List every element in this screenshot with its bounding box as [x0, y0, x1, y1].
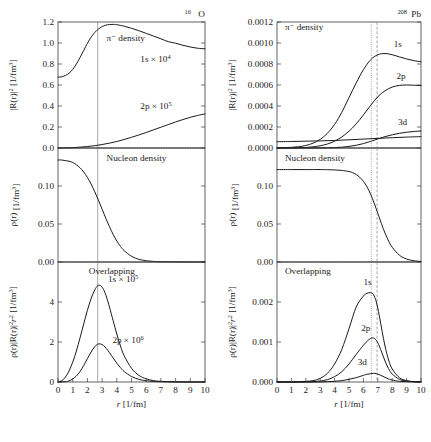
plot-frame-left-middle: 0.100.050.00: [38, 148, 205, 267]
xtick-right-2: 2: [304, 385, 309, 395]
x-axis-label-right: r [1/fm]: [334, 399, 363, 409]
xtick-left-10: 10: [200, 385, 210, 395]
svg-text:|R(r)|2 [1/fm3]: |R(r)|2 [1/fm3]: [226, 59, 237, 110]
annotation-3d-top-right: 3d: [398, 117, 408, 127]
xtick-right-1: 1: [289, 385, 294, 395]
xtick-left-4: 4: [115, 385, 120, 395]
xtick-right-8: 8: [390, 385, 395, 395]
panel-title-left: 16O: [185, 8, 206, 19]
xtick-left-2: 2: [85, 385, 90, 395]
ytick-left-middle-2: 0.05: [38, 219, 54, 229]
figure-root: 16O1.21.00.80.60.40.20.00.100.050.004200…: [0, 0, 431, 442]
svg-text:208: 208: [397, 8, 407, 15]
annotation-3d-bottom-right: 3d: [358, 357, 368, 367]
ytick-left-middle-3: 0.00: [38, 257, 54, 267]
annotation-pi-density-right: π⁻ density: [285, 22, 324, 32]
xtick-left-3: 3: [100, 385, 105, 395]
ytick-right-top-0: 0.0012: [248, 17, 274, 27]
y-axis-label-right-middle: ρ(r) [1/fm3]: [227, 184, 240, 227]
curve-left-top-2p-x-10-5: [58, 114, 205, 148]
ytick-left-top-6: 0.0: [43, 143, 55, 153]
plot-frame-right-middle: 0.100.050.00: [257, 148, 421, 267]
curve-left-bottom-1s-x-10-5: [58, 285, 205, 382]
annotation-pi-density-left: π⁻ density: [107, 33, 146, 43]
ref-lines-right-bottom: [371, 262, 377, 382]
y-axis-label-left-bottom: ρ(r)|R(r)|2r2 [1/fm3]: [7, 286, 18, 358]
chart-o16: 16O1.21.00.80.60.40.20.00.100.050.004200…: [0, 0, 215, 442]
ytick-right-middle-2: 0.05: [257, 219, 273, 229]
ytick-right-top-5: 0.0002: [248, 122, 274, 132]
annotation-1s-top-right: 1s: [394, 39, 403, 49]
xtick-right-7: 7: [376, 385, 381, 395]
ytick-left-bottom-2: 2: [49, 337, 54, 347]
svg-text:ρ(r)|R(r)|2r2 [1/fm3]: ρ(r)|R(r)|2r2 [1/fm3]: [226, 286, 237, 358]
annotation-2p-bottom-right: 2p: [361, 323, 371, 333]
x-axis-left: 012345678910r [1/fm]: [56, 378, 210, 409]
ytick-left-top-1: 1.0: [43, 38, 55, 48]
ytick-right-top-3: 0.0006: [248, 80, 274, 90]
curve-left-nucleon-density: [58, 160, 205, 262]
svg-text:|R(r)|2 [1/fm3]: |R(r)|2 [1/fm3]: [7, 59, 18, 110]
ytick-right-bottom-2: 0.001: [252, 337, 273, 347]
ytick-left-middle-1: 0.10: [38, 181, 54, 191]
y-axis-label-right-bottom: ρ(r)|R(r)|2r2 [1/fm3]: [226, 286, 237, 358]
xtick-right-10: 10: [416, 385, 426, 395]
xtick-left-6: 6: [144, 385, 149, 395]
annotation-2p-top-right: 2p: [397, 71, 407, 81]
curve-left-bottom-2p-x-10-6: [58, 344, 205, 382]
xtick-right-6: 6: [361, 385, 366, 395]
curve-right-top-baseline-small: [277, 137, 421, 142]
annotation-1s-top-left: 1s × 104: [140, 53, 171, 64]
y-axis-label-left-middle: ρ(r) [1/fm3]: [8, 184, 21, 227]
x-axis-right: 012345678910r [1/fm]: [275, 378, 426, 409]
ytick-right-middle-1: 0.10: [257, 181, 273, 191]
annotation-overlapping-right: Overlapping: [285, 266, 331, 276]
xtick-right-9: 9: [404, 385, 409, 395]
plot-frame-right-top: 0.00120.00100.00080.00060.00040.00020.00…: [248, 17, 421, 153]
annotation-2p-top-left: 2p × 105: [140, 100, 171, 111]
chart-pb208: 208Pb0.00120.00100.00080.00060.00040.000…: [215, 0, 431, 442]
ytick-left-bottom-1: 4: [49, 297, 54, 307]
xtick-left-0: 0: [56, 385, 61, 395]
ytick-left-top-2: 0.8: [43, 59, 55, 69]
svg-text:O: O: [198, 9, 205, 19]
ytick-left-top-3: 0.6: [43, 80, 55, 90]
xtick-left-8: 8: [173, 385, 178, 395]
ytick-left-bottom-3: 0: [49, 377, 54, 387]
svg-text:ρ(r) [1/fm3]: ρ(r) [1/fm3]: [227, 184, 240, 227]
panel-group-pb208: 208Pb0.00120.00100.00080.00060.00040.000…: [215, 0, 430, 442]
ytick-right-top-4: 0.0004: [248, 101, 274, 111]
annotation-1s-bottom-left: 1s × 105: [108, 273, 138, 284]
svg-text:ρ(r) [1/fm3]: ρ(r) [1/fm3]: [8, 184, 21, 227]
xtick-left-9: 9: [188, 385, 193, 395]
curve-right-nucleon-density: [277, 170, 421, 262]
ytick-right-top-2: 0.0008: [248, 59, 274, 69]
xtick-right-5: 5: [347, 385, 352, 395]
svg-text:Pb: Pb: [411, 9, 421, 19]
ytick-left-top-4: 0.4: [43, 101, 55, 111]
svg-text:16: 16: [185, 8, 191, 15]
curve-right-bottom-1s: [277, 293, 421, 382]
annotation-1s-bottom-right: 1s: [363, 277, 372, 287]
ref-lines-right-top: [371, 22, 377, 148]
ytick-right-bottom-3: 0.000: [252, 377, 273, 387]
xtick-left-7: 7: [159, 385, 164, 395]
xtick-left-1: 1: [70, 385, 75, 395]
curve-right-bottom-2p: [277, 338, 421, 382]
panel-group-o16: 16O1.21.00.80.60.40.20.00.100.050.004200…: [0, 0, 215, 442]
ytick-left-top-5: 0.2: [43, 122, 55, 132]
y-axis-label-right-top: |R(r)|2 [1/fm3]: [226, 59, 237, 110]
svg-text:ρ(r)|R(r)|2r2 [1/fm3]: ρ(r)|R(r)|2r2 [1/fm3]: [7, 286, 18, 358]
ytick-right-top-6: 0.0000: [248, 143, 274, 153]
xtick-right-4: 4: [332, 385, 337, 395]
xtick-right-3: 3: [318, 385, 323, 395]
ytick-right-bottom-1: 0.002: [252, 297, 273, 307]
ref-lines-right-middle: [371, 148, 377, 262]
x-axis-label-left: r [1/fm]: [117, 399, 146, 409]
ytick-right-middle-3: 0.00: [257, 257, 273, 267]
xtick-right-0: 0: [275, 385, 280, 395]
ytick-right-top-1: 0.0010: [248, 38, 274, 48]
plot-frame-right-bottom: 0.0020.0010.000: [252, 262, 421, 387]
y-axis-label-left-top: |R(r)|2 [1/fm3]: [7, 59, 18, 110]
annotation-2p-bottom-left: 2p × 106: [112, 334, 143, 345]
